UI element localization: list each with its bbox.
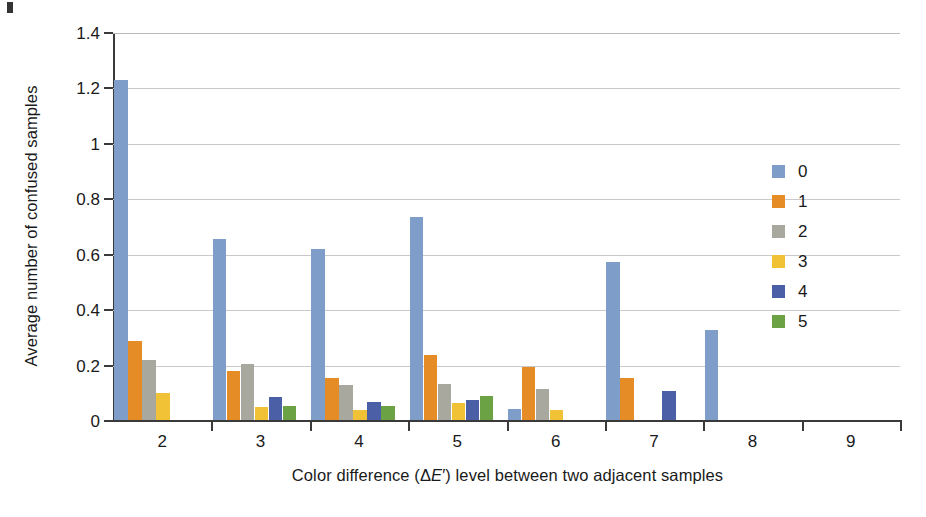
bar-series-0-cat-3 — [213, 239, 227, 421]
bar-series-0-cat-4 — [311, 249, 325, 421]
x-axis-title-text-before: Color difference (Δ — [292, 466, 431, 484]
x-axis-tick-label: 9 — [831, 433, 871, 450]
x-axis-tick — [703, 422, 705, 431]
legend-swatch-icon-5 — [772, 315, 785, 328]
bar-series-1-cat-5 — [424, 355, 438, 422]
bar-group-3 — [213, 33, 297, 421]
bar-series-4-cat-5 — [466, 400, 480, 421]
legend-item-2[interactable]: 2 — [772, 216, 842, 246]
x-axis-tick — [605, 422, 607, 431]
bar-series-1-cat-6 — [522, 367, 536, 421]
bar-group-7 — [606, 33, 690, 421]
x-axis-tick — [900, 422, 902, 431]
legend-label: 2 — [798, 223, 807, 240]
bar-series-2-cat-5 — [438, 384, 452, 421]
bar-series-5-cat-5 — [480, 396, 494, 421]
bar-series-0-cat-8 — [705, 330, 719, 421]
legend-item-1[interactable]: 1 — [772, 186, 842, 216]
x-axis-title: Color difference (ΔE′) level between two… — [113, 466, 902, 485]
bar-series-0-cat-2 — [114, 80, 128, 421]
legend-label: 3 — [798, 253, 807, 270]
bar-series-2-cat-6 — [536, 389, 550, 421]
bar-group-5 — [410, 33, 494, 421]
x-axis-tick-label: 4 — [339, 433, 379, 450]
legend-label: 1 — [798, 193, 807, 210]
x-axis-tick-label: 2 — [142, 433, 182, 450]
bar-series-3-cat-3 — [255, 407, 269, 421]
bar-group-2 — [114, 33, 198, 421]
y-axis-tick-label: 0.4 — [54, 302, 100, 319]
x-axis-tick — [408, 422, 410, 431]
legend-swatch-icon-3 — [772, 255, 785, 268]
bar-series-2-cat-2 — [142, 360, 156, 421]
y-axis-tick-label: 0.8 — [54, 191, 100, 208]
bar-series-3-cat-5 — [452, 403, 466, 421]
x-axis-tick — [310, 422, 312, 431]
x-axis-tick-label: 3 — [241, 433, 281, 450]
y-axis-tick-label: 1.2 — [54, 80, 100, 97]
bar-series-2-cat-3 — [241, 364, 255, 421]
legend-swatch-icon-2 — [772, 225, 785, 238]
bar-series-0-cat-7 — [606, 262, 620, 421]
legend-label: 0 — [798, 163, 807, 180]
x-axis-title-symbol-e: E — [431, 466, 442, 484]
y-axis-tick — [104, 254, 113, 256]
x-axis-tick-label: 5 — [437, 433, 477, 450]
y-axis-tick — [104, 365, 113, 367]
bar-chart-figure: Average number of confused samples 00.20… — [0, 0, 926, 517]
bar-series-5-cat-4 — [381, 406, 395, 421]
y-axis-tick — [104, 198, 113, 200]
y-axis-tick — [104, 143, 113, 145]
bar-series-0-cat-5 — [410, 217, 424, 421]
y-axis-tick — [104, 87, 113, 89]
x-axis-tick-label: 6 — [536, 433, 576, 450]
bar-series-1-cat-7 — [620, 378, 634, 421]
y-axis-tick-label: 0 — [54, 413, 100, 430]
y-axis-tick-label: 1.4 — [54, 25, 100, 42]
legend-label: 4 — [798, 283, 807, 300]
bar-group-4 — [311, 33, 395, 421]
y-axis-tick — [104, 32, 113, 34]
bar-series-5-cat-3 — [283, 406, 297, 421]
legend: 012345 — [772, 156, 842, 336]
y-axis-tick-label: 1 — [54, 136, 100, 153]
legend-item-5[interactable]: 5 — [772, 306, 842, 336]
y-axis-tick-label: 0.6 — [54, 247, 100, 264]
bar-series-1-cat-4 — [325, 378, 339, 421]
y-axis-tick-label: 0.2 — [54, 358, 100, 375]
legend-label: 5 — [798, 313, 807, 330]
x-axis-tick — [211, 422, 213, 431]
bar-series-1-cat-2 — [128, 341, 142, 421]
y-axis-tick — [104, 309, 113, 311]
bar-series-1-cat-3 — [227, 371, 241, 421]
x-axis-title-text-after: ′) level between two adjacent samples — [442, 466, 723, 484]
legend-item-3[interactable]: 3 — [772, 246, 842, 276]
x-axis-tick-label: 7 — [634, 433, 674, 450]
x-axis-tick — [802, 422, 804, 431]
legend-swatch-icon-1 — [772, 195, 785, 208]
legend-swatch-icon-4 — [772, 285, 785, 298]
y-axis-tick-labels: 00.20.40.60.811.21.4 — [44, 0, 100, 517]
x-axis-tick-label: 8 — [732, 433, 772, 450]
bar-series-3-cat-2 — [156, 393, 170, 421]
x-axis-tick — [507, 422, 509, 431]
bar-series-4-cat-4 — [367, 402, 381, 421]
y-axis-tick — [104, 420, 113, 422]
bar-series-4-cat-3 — [269, 397, 283, 421]
bar-series-2-cat-4 — [339, 385, 353, 421]
legend-swatch-icon-0 — [772, 165, 785, 178]
bar-series-4-cat-7 — [662, 391, 676, 421]
legend-item-0[interactable]: 0 — [772, 156, 842, 186]
y-axis-title: Average number of confused samples — [14, 6, 48, 446]
bar-group-6 — [508, 33, 592, 421]
legend-item-4[interactable]: 4 — [772, 276, 842, 306]
